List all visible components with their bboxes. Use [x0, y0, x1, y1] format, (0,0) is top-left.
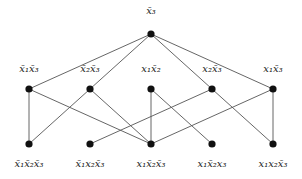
- node-B2: [86, 140, 93, 147]
- edge-M5-B3: [151, 89, 273, 144]
- node-M4: [208, 85, 215, 92]
- lattice-diagram: [0, 0, 302, 179]
- edge-T-M1: [29, 34, 151, 89]
- node-label-M5: x₁x̄₃: [263, 64, 282, 74]
- node-label-M3: x₁x̄₂: [141, 64, 160, 74]
- node-label-B5: x₁x₂x̄₃: [259, 159, 288, 169]
- edge-T-M5: [151, 34, 273, 89]
- edge-M2-B3: [90, 89, 151, 144]
- edge-M2-B1: [29, 89, 90, 144]
- node-B4: [208, 140, 215, 147]
- node-M5: [269, 85, 276, 92]
- edge-T-M4: [151, 34, 212, 89]
- node-label-B4: x₁x̄₂x₃: [198, 159, 227, 169]
- node-label-B2: x̄₁x₂x̄₃: [76, 159, 105, 169]
- node-label-B1: x̄₁x̄₂x̄₃: [15, 159, 44, 169]
- node-B1: [25, 140, 32, 147]
- node-B3: [147, 140, 154, 147]
- node-label-M4: x₂x̄₃: [202, 64, 221, 74]
- edge-M3-B4: [151, 89, 212, 144]
- node-M2: [86, 85, 93, 92]
- node-T: [147, 30, 154, 37]
- node-label-M1: x̄₁x̄₃: [19, 64, 38, 74]
- node-M3: [147, 85, 154, 92]
- node-M1: [25, 85, 32, 92]
- node-label-M2: x̄₂x̄₃: [80, 64, 99, 74]
- node-label-T: x̄₃: [146, 6, 156, 16]
- edge-M4-B5: [212, 89, 273, 144]
- edge-T-M2: [90, 34, 151, 89]
- node-label-B3: x₁x̄₂x̄₃: [137, 159, 166, 169]
- edge-M1-B3: [29, 89, 151, 144]
- node-B5: [269, 140, 276, 147]
